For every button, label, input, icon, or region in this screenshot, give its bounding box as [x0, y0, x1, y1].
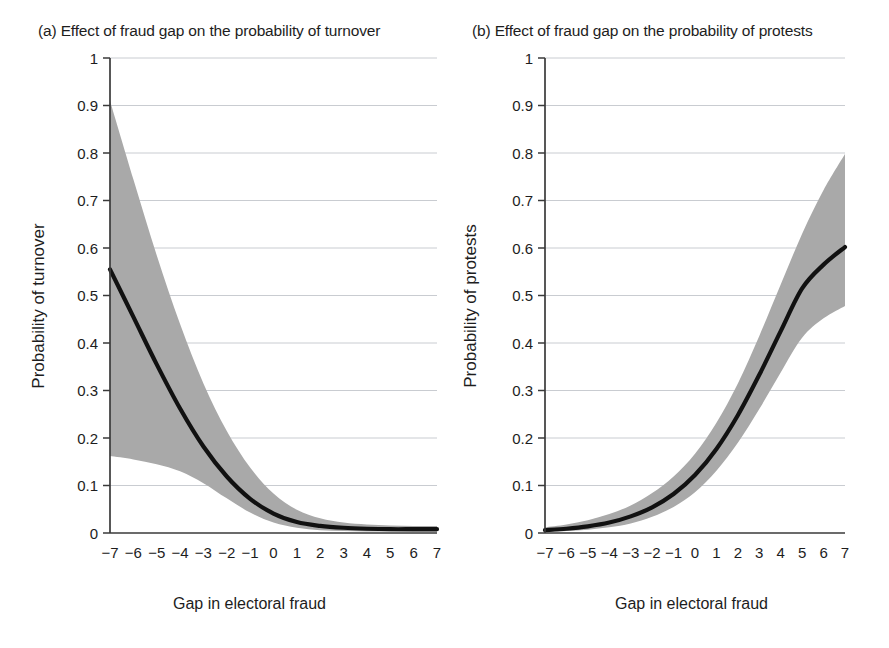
xtick-label-4: −3	[195, 544, 212, 561]
panel-a-plot: 00.10.20.30.40.50.60.70.80.91−7−6−5−4−3−…	[0, 0, 455, 580]
ytick-label-3: 0.3	[512, 382, 533, 399]
panel-b: (b) Effect of fraud gap on the probabili…	[434, 0, 889, 648]
ytick-label-3: 0.3	[77, 382, 98, 399]
ytick-label-7: 0.7	[512, 192, 533, 209]
xtick-label-11: 4	[363, 544, 371, 561]
xtick-label-13: 6	[819, 544, 827, 561]
xtick-label-7: 0	[691, 544, 699, 561]
xtick-label-3: −4	[601, 544, 618, 561]
ytick-label-5: 0.5	[512, 287, 533, 304]
figure-container: (a) Effect of fraud gap on the probabili…	[0, 0, 889, 648]
xtick-label-0: −7	[536, 544, 553, 561]
ytick-label-10: 1	[90, 50, 98, 67]
xtick-label-3: −4	[172, 544, 189, 561]
xtick-label-10: 3	[755, 544, 763, 561]
panel-a-x-axis-label: Gap in electoral fraud	[22, 595, 477, 613]
confidence-band	[110, 101, 437, 532]
xtick-label-10: 3	[339, 544, 347, 561]
xtick-label-0: −7	[101, 544, 118, 561]
xtick-label-12: 5	[386, 544, 394, 561]
ytick-label-9: 0.9	[77, 97, 98, 114]
ytick-label-4: 0.4	[77, 335, 98, 352]
xtick-label-7: 0	[269, 544, 277, 561]
ytick-label-7: 0.7	[77, 192, 98, 209]
panel-b-x-axis-label: Gap in electoral fraud	[464, 595, 889, 613]
xtick-label-1: −6	[125, 544, 142, 561]
ytick-label-4: 0.4	[512, 335, 533, 352]
xtick-label-13: 6	[409, 544, 417, 561]
ytick-label-8: 0.8	[512, 145, 533, 162]
xtick-label-5: −2	[218, 544, 235, 561]
panel-b-plot: 00.10.20.30.40.50.60.70.80.91−7−6−5−4−3−…	[434, 0, 889, 580]
xtick-label-6: −1	[242, 544, 259, 561]
panel-b-y-axis-label: Probability of protests	[461, 156, 481, 456]
ytick-label-6: 0.6	[512, 240, 533, 257]
xtick-label-4: −3	[622, 544, 639, 561]
ytick-label-2: 0.2	[512, 430, 533, 447]
xtick-label-5: −2	[644, 544, 661, 561]
ytick-label-0: 0	[525, 525, 533, 542]
xtick-label-1: −6	[558, 544, 575, 561]
panel-a-y-axis-label: Probability of turnover	[29, 156, 49, 456]
xtick-label-8: 1	[293, 544, 301, 561]
xtick-label-14: 7	[841, 544, 849, 561]
ytick-label-0: 0	[90, 525, 98, 542]
ytick-label-1: 0.1	[512, 477, 533, 494]
xtick-label-2: −5	[579, 544, 596, 561]
panel-a: (a) Effect of fraud gap on the probabili…	[0, 0, 455, 648]
ytick-label-1: 0.1	[77, 477, 98, 494]
ytick-label-9: 0.9	[512, 97, 533, 114]
ytick-label-5: 0.5	[77, 287, 98, 304]
xtick-label-11: 4	[777, 544, 785, 561]
xtick-label-9: 2	[734, 544, 742, 561]
xtick-label-9: 2	[316, 544, 324, 561]
xtick-label-6: −1	[665, 544, 682, 561]
ytick-label-10: 1	[525, 50, 533, 67]
ytick-label-2: 0.2	[77, 430, 98, 447]
xtick-label-12: 5	[798, 544, 806, 561]
ytick-label-6: 0.6	[77, 240, 98, 257]
xtick-label-8: 1	[712, 544, 720, 561]
ytick-label-8: 0.8	[77, 145, 98, 162]
xtick-label-2: −5	[148, 544, 165, 561]
